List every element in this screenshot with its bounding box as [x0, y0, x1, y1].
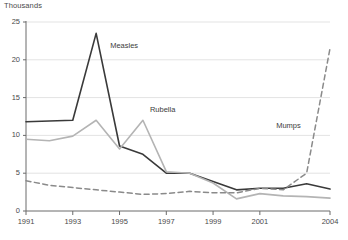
y-tick-label: 5 [0, 168, 20, 177]
y-tick-label: 20 [0, 55, 20, 64]
axis-lines [26, 21, 330, 211]
vaccine-cases-line-chart: Thousands 0510152025 1991199319951997199… [0, 0, 348, 240]
y-tick-label: 25 [0, 17, 20, 26]
x-tick-label: 2004 [322, 217, 339, 226]
x-tick-label: 1991 [18, 217, 35, 226]
x-tick-label: 2001 [252, 217, 269, 226]
x-tick-label: 1999 [205, 217, 222, 226]
x-tick-label: 1995 [111, 217, 128, 226]
gridlines [26, 22, 330, 173]
data-series [26, 33, 330, 199]
series-label-mumps: Mumps [276, 121, 301, 130]
x-tick-label: 1993 [64, 217, 81, 226]
series-label-measles: Measles [110, 41, 138, 50]
y-tick-label: 10 [0, 130, 20, 139]
y-tick-label: 15 [0, 93, 20, 102]
tick-marks [23, 22, 330, 215]
y-tick-label: 0 [0, 206, 20, 215]
chart-canvas [0, 0, 348, 240]
x-tick-label: 1997 [158, 217, 175, 226]
series-line-measles [26, 33, 330, 189]
series-label-rubella: Rubella [150, 105, 175, 114]
